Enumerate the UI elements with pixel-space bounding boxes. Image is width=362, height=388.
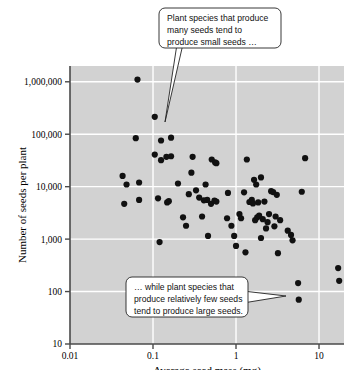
data-point (336, 278, 342, 284)
data-point (158, 157, 164, 163)
data-point (302, 155, 308, 161)
y-axis-title: Number of seeds per plant (16, 147, 28, 263)
data-point (271, 223, 277, 229)
y-tick-label: 1,000,000 (24, 77, 62, 87)
data-point (299, 189, 305, 195)
figure-container: 101001,00010,000100,0001,000,000 0.010.1… (0, 0, 362, 388)
seed-mass-vs-seed-number-scatter-chart: 101001,00010,000100,0001,000,000 0.010.1… (0, 0, 362, 388)
data-point (255, 199, 261, 205)
data-point (168, 135, 174, 141)
x-axis-tick-labels: 0.010.1110 (62, 351, 324, 361)
data-point (231, 233, 237, 239)
data-point (224, 215, 230, 221)
data-point (121, 201, 127, 207)
x-tick-label: 10 (314, 351, 324, 361)
data-point (201, 197, 207, 203)
data-point (134, 77, 140, 83)
data-point (186, 191, 192, 197)
data-point (295, 280, 301, 286)
data-point (183, 223, 189, 229)
y-tick-label: 1,000 (41, 235, 63, 245)
y-axis-tick-labels: 101001,00010,000100,0001,000,000 (24, 77, 62, 349)
data-point (274, 192, 280, 198)
data-point (199, 213, 205, 219)
y-tick-label: 10 (53, 339, 63, 349)
callout-bottom-line-1: … while plant species that (134, 282, 234, 292)
data-point (225, 190, 231, 196)
data-point (289, 237, 295, 243)
data-point (175, 180, 181, 186)
data-point (158, 137, 164, 143)
data-point (119, 173, 125, 179)
data-point (233, 243, 239, 249)
data-point (244, 156, 250, 162)
data-point (335, 265, 341, 271)
data-point (152, 114, 158, 120)
callout-top-line-1: Plant species that produce (167, 13, 268, 23)
data-point (180, 214, 186, 220)
callout-bottom-line-2: produce relatively few seeds (134, 294, 242, 304)
data-point (275, 250, 281, 256)
data-point (193, 187, 199, 193)
data-point (228, 223, 234, 229)
data-point (238, 215, 244, 221)
data-point (277, 217, 283, 223)
data-point (123, 181, 129, 187)
x-tick-label: 0.1 (147, 351, 159, 361)
data-point (258, 174, 264, 180)
data-point (296, 297, 302, 303)
data-point (136, 197, 142, 203)
y-tick-label: 100,000 (31, 130, 62, 140)
data-point (133, 135, 139, 141)
data-point (166, 198, 172, 204)
data-point (213, 160, 219, 166)
data-point (241, 189, 247, 195)
data-point (266, 211, 272, 217)
x-tick-label: 1 (234, 351, 239, 361)
data-point (136, 179, 142, 185)
y-tick-label: 100 (48, 287, 63, 297)
data-point (168, 153, 174, 159)
data-point (155, 195, 161, 201)
figure-bottom-margin (0, 370, 362, 388)
callout-top-line-3: produce small seeds … (167, 37, 257, 47)
x-tick-label: 0.01 (62, 351, 79, 361)
data-point (242, 249, 248, 255)
data-point (156, 239, 162, 245)
data-point (263, 225, 269, 231)
data-point (250, 200, 256, 206)
data-point (190, 154, 196, 160)
data-point (253, 181, 259, 187)
data-point (202, 181, 208, 187)
data-point (261, 198, 267, 204)
callout-bottom-line-3: tend to produce large seeds. (134, 306, 243, 316)
callout-top-line-2: many seeds tend to (167, 25, 242, 35)
data-point (288, 232, 294, 238)
data-point (188, 170, 194, 176)
data-point (152, 151, 158, 157)
data-point (213, 198, 219, 204)
data-point (264, 219, 270, 225)
y-tick-label: 10,000 (36, 182, 62, 192)
data-point (205, 233, 211, 239)
data-point (258, 235, 264, 241)
